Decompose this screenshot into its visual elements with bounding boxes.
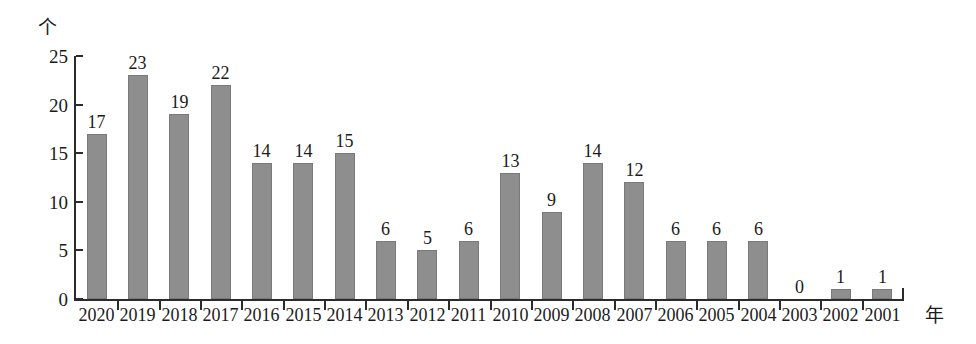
bar [211, 85, 231, 299]
bar-value-label: 14 [572, 142, 613, 160]
x-axis-end-tick [902, 288, 904, 301]
bar-value-label: 1 [820, 268, 861, 286]
bar [831, 289, 851, 299]
bar-chart: 个 0510152025 172319221414156561391412666… [0, 0, 976, 344]
bar-value-label: 0 [779, 278, 820, 296]
bar-value-label: 6 [696, 220, 737, 238]
bar [128, 75, 148, 299]
bar [748, 241, 768, 299]
bar [500, 173, 520, 299]
bar-value-label: 6 [655, 220, 696, 238]
bar-value-label: 14 [283, 142, 324, 160]
y-axis-tick-label: 5 [34, 241, 68, 260]
x-axis-unit-label: 年 [925, 306, 944, 325]
bar-value-label: 5 [407, 229, 448, 247]
bar-value-label: 9 [531, 191, 572, 209]
bar-value-label: 23 [117, 54, 158, 72]
bar-value-label: 19 [159, 93, 200, 111]
bar [583, 163, 603, 299]
y-axis-tick [76, 298, 83, 300]
bar-value-label: 22 [200, 64, 241, 82]
bar [169, 114, 189, 299]
bar [666, 241, 686, 299]
x-axis-tick-label: 2001 [858, 306, 907, 324]
y-axis-line [74, 56, 76, 301]
bar-value-label: 12 [614, 161, 655, 179]
bar [624, 182, 644, 299]
y-axis-tick-label: 15 [34, 144, 68, 163]
bar-value-label: 13 [490, 152, 531, 170]
bar-value-label: 1 [862, 268, 903, 286]
y-axis-tick [76, 201, 83, 203]
y-axis-tick [76, 249, 83, 251]
bar [87, 134, 107, 299]
y-axis-unit-label: 个 [38, 18, 57, 37]
y-axis-tick-label: 0 [34, 290, 68, 309]
y-axis-tick-label: 25 [34, 47, 68, 66]
bar-value-label: 6 [448, 220, 489, 238]
bar-value-label: 17 [76, 113, 117, 131]
bar-value-label: 6 [365, 220, 406, 238]
y-axis-tick [76, 55, 83, 57]
bar [376, 241, 396, 299]
bar [707, 241, 727, 299]
y-axis-tick [76, 152, 83, 154]
y-axis-tick [76, 104, 83, 106]
bar [459, 241, 479, 299]
bar [335, 153, 355, 299]
bar [417, 250, 437, 299]
bar-value-label: 6 [738, 220, 779, 238]
bar [293, 163, 313, 299]
y-axis-tick-label: 10 [34, 193, 68, 212]
bar [542, 212, 562, 299]
y-axis-tick-label: 20 [34, 96, 68, 115]
bar [252, 163, 272, 299]
bar-value-label: 14 [241, 142, 282, 160]
bar [872, 289, 892, 299]
bar-value-label: 15 [324, 132, 365, 150]
